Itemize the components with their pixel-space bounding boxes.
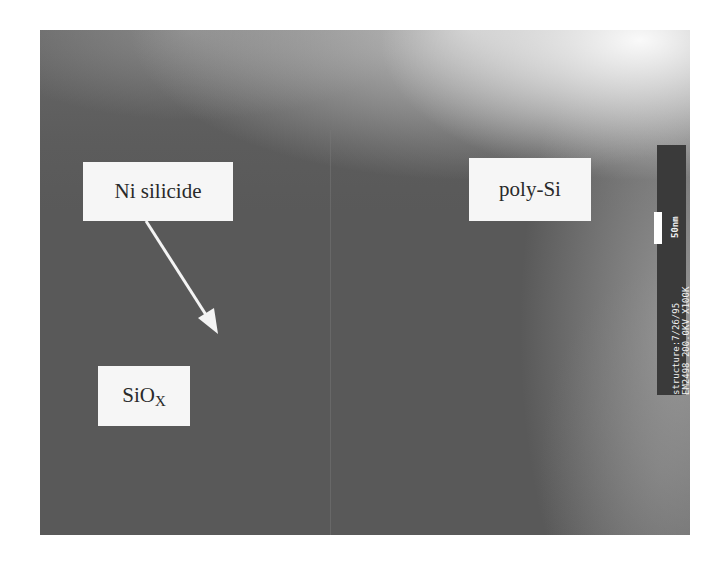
label-siox-base: SiO — [122, 383, 155, 407]
micrograph-light-regions — [40, 30, 690, 535]
scale-bar-info: structure:7/26/95 EM2498 200.0KV X100K — [671, 287, 691, 395]
scale-bar-info-line2: EM2498 200.0KV X100K — [681, 287, 691, 395]
scale-bar-length: 50nm — [670, 216, 680, 238]
label-poly-si: poly-Si — [469, 158, 591, 221]
label-siox-text: SiOX — [122, 383, 166, 410]
label-siox: SiOX — [98, 366, 190, 426]
label-poly-si-text: poly-Si — [499, 177, 561, 202]
label-ni-silicide-text: Ni silicide — [115, 179, 202, 204]
micrograph-seam-line — [330, 130, 331, 535]
tem-micrograph — [40, 30, 690, 535]
label-ni-silicide: Ni silicide — [83, 162, 233, 221]
scale-bar-marker — [654, 212, 662, 244]
label-siox-subscript: X — [155, 393, 166, 409]
scale-bar-info-line1: structure:7/26/95 — [671, 287, 681, 395]
